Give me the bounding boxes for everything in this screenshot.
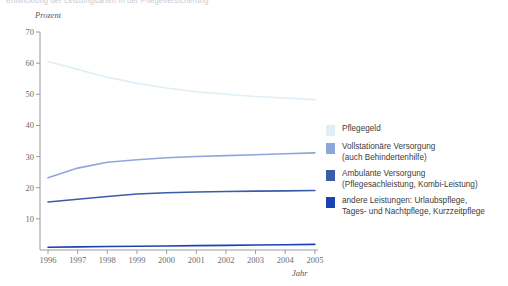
legend-item[interactable]: Pflegegeld [326,124,506,136]
x-tick-label: 2003 [247,255,264,265]
series-line [48,191,315,203]
chart-legend: PflegegeldVollstationäre Versorgung (auc… [326,124,506,223]
x-tick-label: 2000 [158,255,175,265]
chart-container: Entwicklung der Leistungsarten in der Pf… [0,0,508,286]
series-line [48,62,315,100]
legend-item[interactable]: Vollstationäre Versorgung (auch Behinder… [326,142,506,163]
legend-color-swatch [326,125,335,136]
legend-color-swatch [326,170,335,181]
series-line [48,153,315,178]
series-line [48,244,315,247]
series-lines [48,62,315,248]
legend-item-label: Vollstationäre Versorgung (auch Behinder… [342,142,435,163]
x-tick-label: 2005 [306,255,323,265]
x-tick-label: 1996 [40,255,57,265]
legend-item[interactable]: Ambulante Versorgung (Pflegesachleistung… [326,169,506,190]
x-tick-label: 1998 [99,255,116,265]
axis-lines [40,32,318,250]
x-tick-label: 2004 [277,255,294,265]
x-tick-label: 1997 [69,255,86,265]
legend-color-swatch [326,197,335,208]
x-tick-marks [48,250,315,254]
legend-color-swatch [326,143,335,154]
legend-item-label: andere Leistungen: Urlaubspflege, Tages-… [342,196,485,217]
x-tick-label: 2002 [217,255,234,265]
y-tick-marks [36,32,40,219]
x-tick-label: 1999 [128,255,145,265]
x-tick-label: 2001 [188,255,205,265]
legend-item-label: Ambulante Versorgung (Pflegesachleistung… [342,169,478,190]
legend-item-label: Pflegegeld [342,124,381,135]
legend-item[interactable]: andere Leistungen: Urlaubspflege, Tages-… [326,196,506,217]
